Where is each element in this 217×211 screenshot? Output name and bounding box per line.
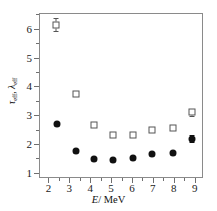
data-point-open-square [130, 131, 137, 138]
data-point-open-square [169, 124, 176, 131]
y-axis-tick-major [34, 29, 39, 30]
y-axis-subscript-eff-1: eff [11, 94, 18, 101]
data-point-open-square [91, 121, 98, 128]
y-axis-tick-minor [36, 43, 39, 44]
x-axis-title: E/ MeV [0, 194, 217, 205]
x-axis-tick-minor [163, 178, 164, 181]
data-point-open-square [72, 91, 79, 98]
x-axis-tick-minor [59, 178, 60, 181]
y-axis-symbol-tau: τ [7, 101, 17, 104]
y-axis-tick-major [34, 115, 39, 116]
y-axis-tick-major [34, 86, 39, 87]
x-axis-units: / MeV [98, 194, 125, 205]
y-axis-tick-major [34, 58, 39, 59]
y-axis-title: τeff, λeff [7, 41, 17, 141]
x-axis-tick-minor [122, 178, 123, 181]
y-axis-tick-major [34, 173, 39, 174]
data-point-filled-circle [188, 135, 195, 142]
x-axis-tick-label: 5 [108, 182, 114, 194]
x-axis-tick-label: 9 [192, 182, 198, 194]
data-point-filled-circle [130, 155, 137, 162]
data-point-filled-circle [53, 121, 60, 128]
plot-area: 12345623456789 [39, 13, 203, 178]
y-axis-subscript-eff-2: eff [11, 78, 18, 85]
data-point-filled-circle [169, 150, 176, 157]
y-axis-tick-minor [36, 101, 39, 102]
y-axis-symbol-lambda: λ [7, 85, 17, 89]
x-axis-tick-label: 2 [46, 182, 52, 194]
y-axis-tick-label: 6 [27, 23, 33, 35]
data-point-filled-circle [148, 151, 155, 158]
y-axis-tick-minor [36, 72, 39, 73]
y-axis-tick-label: 1 [27, 167, 33, 179]
x-axis-tick-label: 8 [171, 182, 177, 194]
data-point-filled-circle [110, 157, 117, 164]
x-axis-tick-label: 6 [129, 182, 135, 194]
data-point-filled-circle [91, 156, 98, 163]
x-axis-tick-minor [80, 178, 81, 181]
x-axis-tick-label: 3 [67, 182, 73, 194]
data-point-filled-circle [72, 147, 79, 154]
data-point-open-square [110, 131, 117, 138]
y-axis-tick-minor [36, 14, 39, 15]
x-axis-tick-minor [101, 178, 102, 181]
x-axis-tick-label: 7 [150, 182, 156, 194]
error-bar-cap [53, 31, 58, 32]
y-axis-tick-minor [36, 130, 39, 131]
y-axis-tick-label: 3 [27, 109, 33, 121]
data-point-open-square [188, 109, 195, 116]
y-axis-tick-label: 2 [27, 138, 33, 150]
error-bar-cap [53, 18, 58, 19]
y-axis-tick-label: 4 [27, 80, 33, 92]
data-point-open-square [148, 126, 155, 133]
figure-scatter-plot: 12345623456789 E/ MeV τeff, λeff [0, 0, 217, 211]
error-bar-cap [189, 116, 194, 117]
error-bar-cap [189, 142, 194, 143]
y-axis-tick-major [34, 144, 39, 145]
x-axis-tick-minor [142, 178, 143, 181]
y-axis-tick-label: 5 [27, 52, 33, 64]
x-axis-tick-minor [184, 178, 185, 181]
y-axis-tick-minor [36, 158, 39, 159]
x-axis-tick-label: 4 [87, 182, 93, 194]
data-point-open-square [52, 21, 59, 28]
